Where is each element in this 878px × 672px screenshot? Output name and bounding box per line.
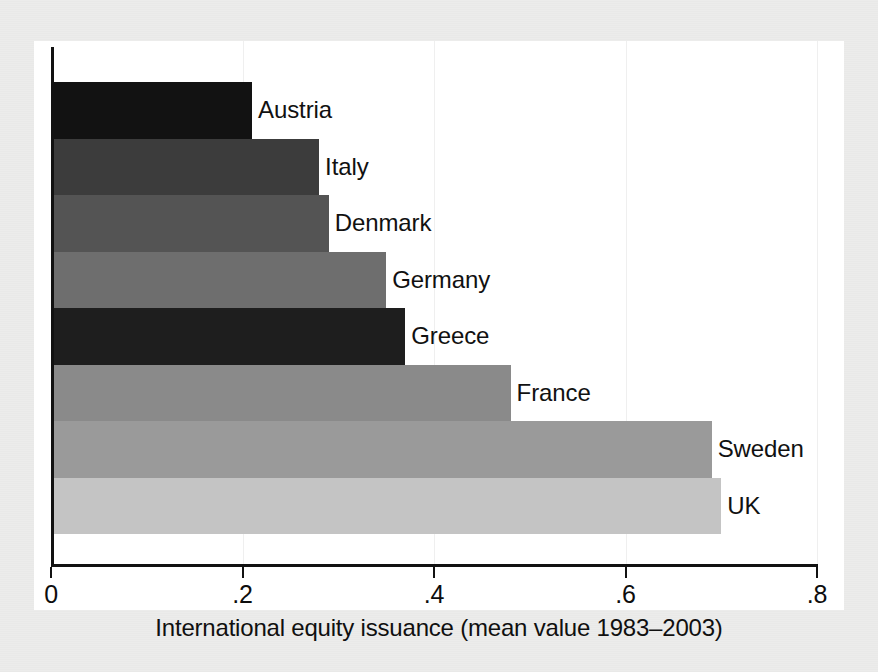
x-tick-label-3: .6 (615, 580, 635, 609)
bar-row: Denmark (0, 195, 878, 252)
bar-label-austria: Austria (258, 96, 332, 124)
x-tick-label-0: 0 (44, 580, 58, 609)
bar-italy (53, 139, 319, 196)
bar-france (53, 365, 511, 422)
bar-label-italy: Italy (325, 153, 369, 181)
bar-austria (53, 82, 252, 139)
bars-group: AustriaItalyDenmarkGermanyGreeceFranceSw… (0, 0, 878, 672)
x-tick-mark-4 (816, 567, 818, 578)
bar-row: France (0, 365, 878, 422)
bar-row: UK (0, 478, 878, 535)
bar-uk (53, 478, 721, 535)
bar-germany (53, 252, 386, 309)
x-tick-mark-0 (50, 567, 52, 578)
x-tick-label-4: .8 (807, 580, 827, 609)
x-tick-label-1: .2 (232, 580, 252, 609)
bar-label-denmark: Denmark (335, 209, 432, 237)
x-tick-mark-3 (625, 567, 627, 578)
x-axis-title: International equity issuance (mean valu… (0, 614, 878, 642)
bar-label-germany: Germany (392, 266, 490, 294)
bar-row: Austria (0, 82, 878, 139)
bar-row: Greece (0, 308, 878, 365)
x-tick-mark-1 (242, 567, 244, 578)
bar-label-uk: UK (727, 492, 760, 520)
bar-label-sweden: Sweden (718, 435, 804, 463)
bar-label-greece: Greece (411, 322, 489, 350)
bar-row: Italy (0, 139, 878, 196)
bar-denmark (53, 195, 329, 252)
bar-sweden (53, 421, 712, 478)
bar-chart-figure: AustriaItalyDenmarkGermanyGreeceFranceSw… (0, 0, 878, 672)
x-tick-label-2: .4 (424, 580, 444, 609)
x-tick-mark-2 (433, 567, 435, 578)
y-axis-line (51, 47, 54, 566)
bar-row: Sweden (0, 421, 878, 478)
bar-label-france: France (517, 379, 591, 407)
bar-row: Germany (0, 252, 878, 309)
bar-greece (53, 308, 405, 365)
